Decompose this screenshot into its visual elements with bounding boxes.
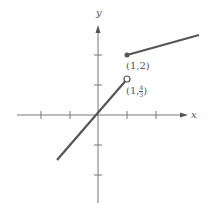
open-circle-marker	[124, 76, 130, 82]
y-axis-arrow-icon	[96, 25, 101, 33]
graph-canvas	[0, 0, 212, 220]
point-label-open-prefix: (1,	[126, 85, 139, 96]
x-axis-label: x	[191, 110, 197, 120]
x-axis-arrow-icon	[180, 113, 188, 118]
lower-line-segment	[57, 82, 125, 161]
point-label-open: (1,43)	[126, 85, 147, 98]
upper-line-segment	[127, 35, 199, 55]
point-label-open-suffix: )	[143, 85, 147, 96]
point-label-filled: (1,2)	[126, 61, 150, 71]
filled-dot-marker	[125, 53, 130, 58]
y-axis-label: y	[96, 8, 102, 18]
